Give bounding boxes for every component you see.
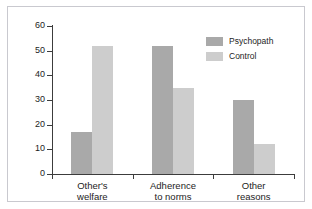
x-axis-separator: [213, 174, 214, 179]
category-label: Adherence to norms: [133, 180, 214, 202]
y-tick-label: 10: [35, 143, 45, 154]
bar-control: [173, 88, 194, 174]
chart-legend: Psychopath Control: [206, 36, 273, 66]
y-tick-label: 0: [40, 168, 45, 179]
category-label: Other's welfare: [52, 180, 133, 202]
x-axis-separator: [133, 174, 134, 179]
bar-control: [92, 46, 113, 174]
legend-swatch-control-icon: [206, 52, 223, 61]
y-tick-label: 40: [35, 69, 45, 80]
legend-swatch-psychopath-icon: [206, 37, 223, 46]
chart-figure: % Responses 0102030405060 Other's welfar…: [0, 0, 312, 209]
legend-item: Psychopath: [206, 36, 273, 46]
bar-psychopath: [152, 46, 173, 174]
y-tick-label: 60: [35, 20, 45, 31]
y-tick-label: 30: [35, 94, 45, 105]
bar-psychopath: [71, 132, 92, 174]
x-axis-separator: [52, 174, 53, 179]
x-axis-line: [52, 174, 294, 175]
y-tick-label: 50: [35, 45, 45, 56]
bar-control: [254, 144, 275, 174]
category-label: Other reasons: [213, 180, 294, 202]
legend-item: Control: [206, 51, 273, 61]
y-tick-label: 20: [35, 119, 45, 130]
bar-psychopath: [233, 100, 254, 174]
legend-label-psychopath: Psychopath: [229, 36, 273, 46]
legend-label-control: Control: [229, 51, 256, 61]
x-axis-separator: [294, 174, 295, 179]
